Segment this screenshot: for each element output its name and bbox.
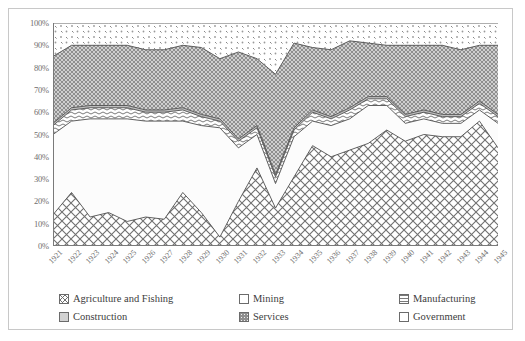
legend-label: Construction [73,312,127,323]
legend-item-agriculture-and-fishing[interactable]: Agriculture and Fishing [59,294,239,305]
x-tick-label: 1945 [492,248,510,266]
x-tick-label: 1926 [139,248,157,266]
x-tick-label: 1921 [47,248,65,266]
legend-label: Agriculture and Fishing [73,294,173,305]
y-tick-label: 0% [38,241,49,251]
x-tick-label: 1935 [306,248,324,266]
x-tick-label: 1928 [176,248,194,266]
x-tick-label: 1922 [65,248,83,266]
legend-swatch-services-icon [239,312,249,322]
legend-row-1: Agriculture and Fishing Mining Manufactu… [59,290,489,308]
y-tick-label: 80% [34,63,49,73]
legend-item-mining[interactable]: Mining [239,294,399,305]
x-tick-label: 1931 [232,248,250,266]
legend-swatch-manufacturing-icon [399,294,409,304]
legend-label: Manufacturing [413,294,475,305]
x-tick-label: 1933 [269,248,287,266]
y-axis-line [53,23,54,246]
x-tick-label: 1937 [343,248,361,266]
legend-swatch-government-icon [399,312,409,322]
chart-legend: Agriculture and Fishing Mining Manufactu… [59,290,489,328]
x-tick-label: 1929 [195,248,213,266]
x-tick-label: 1923 [84,248,102,266]
plot-area: 0%10%20%30%40%50%60%70%80%90%100% [53,23,498,246]
x-tick-label: 1924 [102,248,120,266]
legend-item-services[interactable]: Services [239,312,399,323]
legend-item-manufacturing[interactable]: Manufacturing [399,294,475,305]
x-tick-label: 1932 [251,248,269,266]
legend-row-2: Construction Services Government [59,308,489,326]
x-tick-label: 1941 [418,248,436,266]
legend-swatch-mining-icon [239,294,249,304]
y-tick-label: 50% [34,130,49,140]
y-tick-label: 10% [34,219,49,229]
x-tick-label: 1936 [325,248,343,266]
legend-swatch-agriculture-icon [59,294,69,304]
legend-item-construction[interactable]: Construction [59,312,239,323]
legend-item-government[interactable]: Government [399,312,466,323]
y-tick-label: 40% [34,152,49,162]
legend-label: Services [253,312,289,323]
x-tick-label: 1944 [473,248,491,266]
x-tick-label: 1934 [288,248,306,266]
legend-label: Mining [253,294,284,305]
x-tick-label: 1927 [158,248,176,266]
legend-swatch-construction-icon [59,312,69,322]
stacked-area-chart [53,23,498,246]
x-tick-label: 1943 [455,248,473,266]
x-tick-label: 1925 [121,248,139,266]
y-tick-label: 90% [34,40,49,50]
x-axis-ticks: 1921192219231924192519261927192819291930… [53,248,498,292]
x-tick-label: 1938 [362,248,380,266]
y-tick-label: 30% [34,174,49,184]
y-tick-label: 100% [30,18,49,28]
legend-label: Government [413,312,466,323]
y-tick-label: 20% [34,196,49,206]
x-tick-label: 1942 [436,248,454,266]
chart-frame: 0%10%20%30%40%50%60%70%80%90%100% 192119… [8,8,513,330]
y-tick-label: 70% [34,85,49,95]
x-tick-label: 1930 [214,248,232,266]
x-tick-label: 1940 [399,248,417,266]
x-axis-line [53,245,498,246]
y-tick-label: 60% [34,107,49,117]
x-tick-label: 1939 [380,248,398,266]
